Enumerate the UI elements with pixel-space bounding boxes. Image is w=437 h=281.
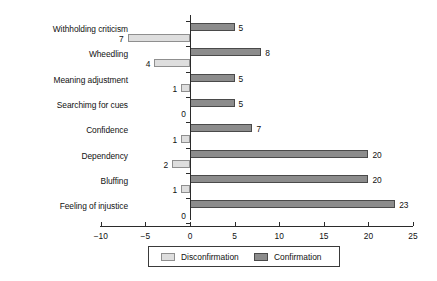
legend-swatch-disconfirmation [161,253,175,261]
category-label: Dependency [81,152,128,160]
y-tick [186,223,190,224]
legend-swatch-confirmation [254,253,268,261]
y-tick [186,21,190,22]
x-tick-label: 10 [259,232,299,240]
bar-confirmation [190,99,235,107]
value-label-confirmation: 23 [399,201,408,209]
x-tick-label: 15 [304,232,344,240]
x-tick [145,222,146,226]
bar-confirmation [190,124,252,132]
value-label-disconfirmation: 7 [119,35,124,43]
category-label: Searchimg for cues [57,101,128,109]
y-tick [186,97,190,98]
y-tick [186,72,190,73]
bar-chart: Withholding criticismWheedlingMeaning ad… [0,0,437,281]
x-axis-line [100,226,413,227]
y-tick [186,46,190,47]
bar-confirmation [190,48,261,56]
x-tick [235,222,236,226]
legend: Disconfirmation Confirmation [148,246,340,267]
value-label-confirmation: 8 [265,49,270,57]
value-label-disconfirmation: 4 [146,60,151,68]
x-tick [368,222,369,226]
x-tick-label: −10 [81,232,121,240]
bar-disconfirmation [181,84,190,92]
x-tick [279,222,280,226]
category-label: Feeling of injustice [60,202,128,210]
bar-disconfirmation [154,59,190,67]
bar-disconfirmation [181,135,190,143]
value-label-confirmation: 20 [372,151,381,159]
value-label-disconfirmation: 0 [181,110,186,118]
bar-disconfirmation [181,185,190,193]
value-label-confirmation: 5 [239,24,244,32]
x-tick-label: 20 [348,232,388,240]
x-tick-label: 5 [215,232,255,240]
value-label-disconfirmation: 1 [172,186,177,194]
bar-confirmation [190,23,235,31]
value-label-disconfirmation: 1 [172,85,177,93]
value-label-disconfirmation: 1 [172,136,177,144]
value-label-confirmation: 7 [256,125,261,133]
y-tick [186,198,190,199]
y-tick [186,173,190,174]
y-tick [186,122,190,123]
value-label-confirmation: 5 [239,100,244,108]
x-tick [101,222,102,226]
bar-confirmation [190,175,368,183]
value-label-disconfirmation: 0 [181,212,186,220]
category-label: Confidence [86,126,128,134]
bar-confirmation [190,200,395,208]
bar-confirmation [190,74,235,82]
value-label-disconfirmation: 2 [164,161,169,169]
category-label: Meaning adjustment [53,76,128,84]
x-tick-label: 0 [170,232,210,240]
value-label-confirmation: 20 [372,176,381,184]
y-tick [186,148,190,149]
x-tick-label: −5 [125,232,165,240]
x-tick [190,222,191,226]
bar-disconfirmation [128,34,190,42]
zero-axis-line [190,15,191,220]
category-label: Withholding criticism [53,25,128,33]
x-tick-label: 25 [393,232,433,240]
x-tick [413,222,414,226]
category-label: Wheedling [89,50,128,58]
legend-label-disconfirmation: Disconfirmation [181,253,239,261]
bar-confirmation [190,150,368,158]
x-tick [324,222,325,226]
value-label-confirmation: 5 [239,75,244,83]
category-label: Bluffing [101,177,128,185]
bar-disconfirmation [172,160,190,168]
legend-label-confirmation: Confirmation [274,253,321,261]
